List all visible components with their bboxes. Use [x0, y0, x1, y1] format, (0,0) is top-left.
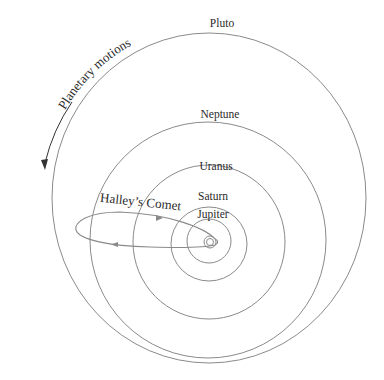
label-neptune: Neptune	[201, 108, 240, 121]
orbit-neptune	[90, 122, 326, 358]
label-pluto: Pluto	[210, 17, 235, 29]
solar-system-diagram: Planetary motions Pluto Neptune Uranus S…	[0, 0, 384, 380]
arrowhead-icon	[41, 159, 48, 170]
label-halleys-comet: Halley’s Comet	[99, 190, 182, 213]
diagram-canvas: Planetary motions Pluto Neptune Uranus S…	[0, 0, 384, 380]
orbit-uranus	[133, 165, 285, 319]
comet-arrow-left-icon	[111, 242, 118, 247]
label-saturn: Saturn	[198, 190, 228, 202]
label-uranus: Uranus	[199, 160, 233, 172]
planetary-motions-label: Planetary motions	[55, 35, 134, 112]
orbit-earth	[207, 239, 214, 246]
label-jupiter: Jupiter	[197, 208, 228, 221]
